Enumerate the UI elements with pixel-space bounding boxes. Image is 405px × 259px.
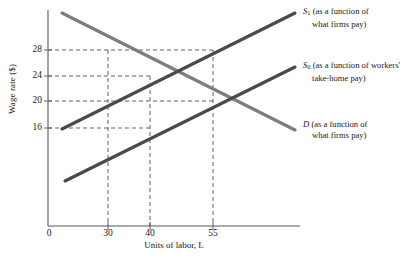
y-tick-20: 20 (16, 96, 42, 106)
series-label-D: D (as a function of what firms pay) (303, 119, 367, 140)
x-tick-0: 0 (36, 229, 62, 239)
series-desc-line1-S0: (as a function of workers' (313, 60, 400, 70)
chart-figure: Wage rate ($) 28 24 20 16 0 30 40 55 Uni… (0, 0, 405, 259)
x-tick-40: 40 (137, 229, 163, 239)
series-desc-line1-S1: (as a function of (313, 6, 369, 16)
y-tick-labels: 28 24 20 16 (8, 0, 42, 259)
series-line-S0 (65, 67, 295, 181)
series-label-S0: S0 (as a function of workers' take-home … (303, 60, 400, 83)
x-tick-55: 55 (200, 229, 226, 239)
y-tick-28: 28 (16, 45, 42, 55)
series-symbol-D: D (303, 119, 309, 129)
series-label-S1: S1 (as a function of what firms pay) (303, 6, 369, 29)
series-subscript-S0: 0 (307, 63, 310, 70)
y-tick-24: 24 (16, 71, 42, 81)
x-tick-30: 30 (95, 229, 121, 239)
series-desc-line1-D: (as a function of (311, 119, 367, 129)
x-axis-title: Units of labor, L (48, 240, 300, 250)
y-tick-16: 16 (16, 123, 42, 133)
series-subscript-S1: 1 (307, 9, 310, 16)
x-axis-title-text: Units of labor, L (144, 240, 204, 250)
series-desc-line2-S1: what firms pay) (303, 19, 369, 30)
series-desc-line2-D: what firms pay) (303, 130, 367, 141)
series-desc-line2-S0: take-home pay) (303, 73, 400, 84)
